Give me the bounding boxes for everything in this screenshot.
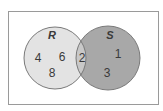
element-6: 6 (59, 50, 66, 64)
element-1: 1 (115, 47, 122, 61)
element-4: 4 (35, 51, 42, 65)
element-8: 8 (49, 66, 56, 80)
set-r-label: R (48, 29, 56, 41)
set-s-label: S (106, 29, 114, 41)
element-3: 3 (104, 66, 111, 80)
element-2: 2 (79, 51, 86, 65)
venn-diagram: R S 4 6 8 2 1 3 (0, 0, 163, 111)
